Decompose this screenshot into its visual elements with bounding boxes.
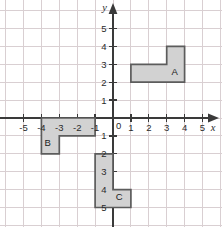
y-axis-arrowhead [109, 3, 118, 14]
x-tick-label: 1 [128, 122, 133, 133]
shape-label-b: B [44, 137, 50, 148]
coordinate-plane-svg: -5-4-3-2-11234512345123450xyABC [0, 0, 222, 227]
y-tick-label: 3 [101, 166, 106, 177]
y-tick-label: 2 [101, 148, 106, 159]
x-tick-label: 2 [146, 122, 151, 133]
shape-label-a: A [172, 66, 179, 77]
shape-label-c: C [116, 191, 123, 202]
y-tick-label: 2 [101, 77, 106, 88]
y-tick-label: 4 [101, 184, 106, 195]
x-tick-label: 3 [164, 122, 169, 133]
y-tick-label: 4 [101, 41, 106, 52]
y-tick-label: 1 [101, 95, 106, 106]
x-axis-label: x [210, 122, 216, 133]
y-axis-label: y [101, 2, 107, 13]
text-labels: -5-4-3-2-11234512345123450xyABC [19, 2, 215, 213]
x-tick-label: 5 [200, 122, 205, 133]
coordinate-plane-figure: -5-4-3-2-11234512345123450xyABC [0, 0, 222, 227]
x-tick-label: -3 [55, 122, 63, 133]
x-tick-label: -5 [19, 122, 27, 133]
x-tick-label: 4 [182, 122, 187, 133]
x-tick-label: -2 [73, 122, 81, 133]
y-tick-label: 3 [101, 59, 106, 70]
shape-b [41, 118, 95, 154]
shape-a [131, 46, 185, 82]
y-tick-label: 1 [101, 130, 106, 141]
y-tick-label: 5 [101, 202, 106, 213]
origin-label: 0 [116, 120, 121, 131]
x-tick-label: -4 [37, 122, 45, 133]
shape-c [95, 154, 131, 208]
y-tick-label: 5 [101, 23, 106, 34]
x-tick-label: -1 [91, 122, 99, 133]
